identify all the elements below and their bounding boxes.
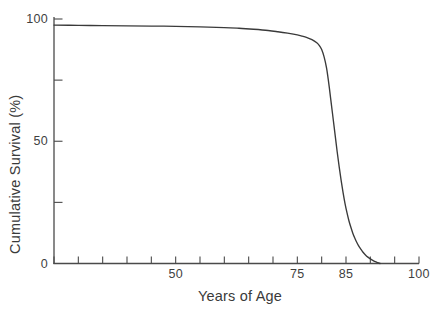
- x-axis-tick-label: 85: [321, 268, 371, 281]
- chart-plot-area: [0, 0, 432, 313]
- x-axis-title: Years of Age: [150, 289, 330, 304]
- y-axis-title: Cumulative Survival (%): [8, 95, 23, 254]
- y-axis-ticks: [54, 19, 63, 202]
- survival-chart: 100500 507585100 Cumulative Survival (%)…: [0, 0, 432, 313]
- y-axis-tick-label: 100: [8, 13, 48, 26]
- y-axis-tick-label: 0: [8, 258, 48, 271]
- survival-curve: [54, 25, 380, 263]
- x-axis-ticks: [54, 257, 419, 264]
- x-axis-tick-label: 100: [394, 268, 432, 281]
- x-axis-tick-label: 50: [151, 268, 201, 281]
- x-axis-tick-label: 75: [272, 268, 322, 281]
